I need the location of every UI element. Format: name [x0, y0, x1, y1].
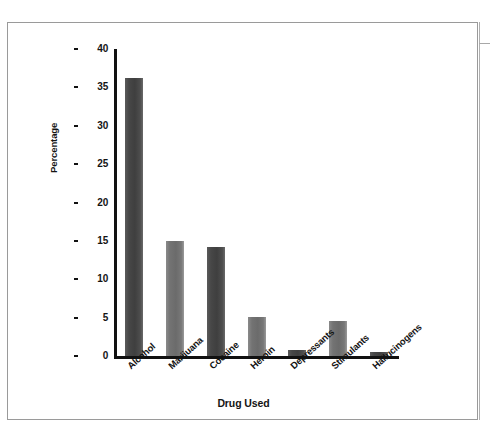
y-tick-label: 15 — [78, 235, 108, 247]
y-tick-label: 0 — [78, 350, 108, 362]
y-tick-label: 20 — [78, 197, 108, 209]
bar — [166, 241, 184, 356]
y-tick-label: 35 — [78, 81, 108, 93]
page-frame: Percentage 0510152025303540 AlcoholMarij… — [7, 22, 478, 420]
y-tick-mark — [74, 125, 78, 127]
plot-area: 0510152025303540 — [114, 49, 399, 356]
y-tick-label: 5 — [78, 312, 108, 324]
y-axis-line — [114, 49, 117, 356]
bar — [207, 247, 225, 356]
y-tick-mark — [74, 163, 78, 165]
header-rule — [479, 43, 490, 44]
y-tick-label: 40 — [78, 43, 108, 55]
bar — [125, 78, 143, 356]
y-tick-mark — [74, 86, 78, 88]
y-tick-label: 30 — [78, 120, 108, 132]
y-tick-label: 10 — [78, 273, 108, 285]
x-axis-title: Drug Used — [8, 397, 479, 409]
y-tick-mark — [74, 355, 78, 357]
y-tick-mark — [74, 278, 78, 280]
bar-chart-figure: Percentage 0510152025303540 AlcoholMarij… — [8, 23, 479, 421]
right-margin-rule — [479, 22, 480, 420]
y-tick-mark — [74, 202, 78, 204]
y-tick-label: 25 — [78, 158, 108, 170]
y-tick-mark — [74, 48, 78, 50]
y-tick-mark — [74, 317, 78, 319]
y-axis-title: Percentage — [48, 123, 59, 173]
y-tick-mark — [74, 240, 78, 242]
